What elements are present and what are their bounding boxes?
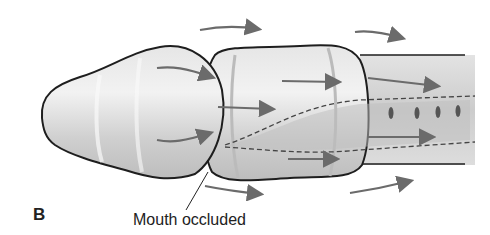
figure-panel: B Mouth occluded xyxy=(0,0,490,235)
mouth-occluded-label: Mouth occluded xyxy=(133,211,246,229)
proboscis xyxy=(42,46,224,178)
worm-tube-illustration xyxy=(0,0,490,235)
annotation-leader-line xyxy=(186,172,208,210)
panel-label: B xyxy=(33,205,45,225)
